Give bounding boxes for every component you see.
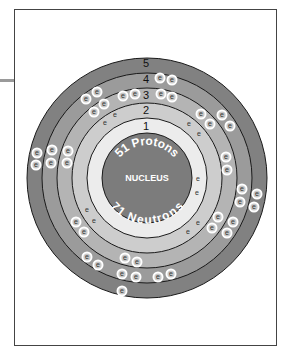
electron: e (186, 228, 190, 235)
electron: e (117, 269, 128, 280)
electron: e (153, 272, 164, 283)
electron-symbol: e (133, 90, 137, 97)
electron: e (213, 212, 224, 223)
electron-symbol: e (158, 74, 162, 81)
electron-symbol: e (196, 175, 200, 182)
electron: e (222, 228, 233, 239)
electron-symbol: e (224, 153, 228, 160)
electron-symbol: e (220, 111, 224, 118)
electron: e (156, 89, 167, 100)
electron-symbol: e (103, 119, 107, 126)
electron-symbol: e (196, 219, 200, 226)
electron: e (228, 217, 239, 228)
electron-symbol: e (210, 224, 214, 231)
electron: e (99, 99, 110, 110)
electron-symbol: e (156, 273, 160, 280)
electron: e (32, 148, 43, 159)
electron: e (92, 217, 96, 224)
electron: e (207, 223, 218, 234)
atom-diagram: 5 4 3 2 1 51 Protons NUCLEUS 71 Neutrons… (0, 0, 294, 363)
electron-symbol: e (187, 120, 191, 127)
electron: e (187, 120, 191, 127)
electron: e (235, 197, 246, 208)
electron: e (93, 260, 104, 271)
electron-symbol: e (159, 90, 163, 97)
electron-symbol: e (225, 166, 229, 173)
shell-1-label: 1 (143, 120, 149, 132)
electron: e (222, 165, 233, 176)
shell-number-labels: 5 4 3 2 1 (143, 57, 149, 132)
electron-symbol: e (82, 228, 86, 235)
electron: e (63, 146, 74, 157)
electron-symbol: e (186, 228, 190, 235)
electron-symbol: e (34, 161, 38, 168)
electron: e (131, 272, 142, 283)
electron: e (130, 89, 141, 100)
electron-symbol: e (238, 198, 242, 205)
electron-symbol: e (92, 217, 96, 224)
electron: e (62, 158, 73, 169)
electron: e (117, 286, 128, 297)
electron: e (85, 206, 89, 213)
electron-symbol: e (170, 76, 174, 83)
electron-symbol: e (197, 130, 201, 137)
electron-symbol: e (240, 185, 244, 192)
electron-symbol: e (84, 95, 88, 102)
shell-3-label: 3 (143, 89, 149, 101)
electron: e (132, 257, 143, 268)
electron-symbol: e (95, 88, 99, 95)
electron-symbol: e (113, 111, 117, 118)
electron: e (46, 158, 57, 169)
electron-symbol: e (195, 189, 199, 196)
electron: e (217, 110, 228, 121)
electron: e (196, 219, 200, 226)
electron-symbol: e (120, 270, 124, 277)
electron-symbol: e (74, 218, 78, 225)
electron: e (195, 189, 199, 196)
electron-symbol: e (92, 108, 96, 115)
electron-symbol: e (96, 261, 100, 268)
electron-symbol: e (85, 253, 89, 260)
electron: e (166, 269, 177, 280)
electron-symbol: e (102, 100, 106, 107)
electron: e (196, 109, 207, 120)
electron-symbol: e (134, 273, 138, 280)
electron: e (197, 130, 201, 137)
electron: e (47, 145, 58, 156)
electron: e (31, 160, 42, 171)
electron: e (196, 175, 200, 182)
electron-symbol: e (49, 159, 53, 166)
electron: e (237, 184, 248, 195)
electron: e (155, 73, 166, 84)
electron-symbol: e (170, 93, 174, 100)
electron: e (249, 202, 260, 213)
electron: e (118, 91, 129, 102)
electron-symbol: e (35, 149, 39, 156)
electron-symbol: e (216, 213, 220, 220)
electron: e (92, 87, 103, 98)
electron-symbol: e (135, 258, 139, 265)
electron-symbol: e (123, 254, 127, 261)
electron: e (82, 252, 93, 263)
electron: e (120, 253, 131, 264)
electron-symbol: e (208, 120, 212, 127)
electron-symbol: e (255, 190, 259, 197)
electron-symbol: e (225, 229, 229, 236)
electron: e (252, 189, 263, 200)
electron: e (89, 107, 100, 118)
electron-symbol: e (199, 110, 203, 117)
electron-symbol: e (228, 122, 232, 129)
shell-4-label: 4 (143, 73, 149, 85)
electron-symbol: e (120, 287, 124, 294)
electron-symbol: e (50, 146, 54, 153)
electron-symbol: e (85, 206, 89, 213)
electron: e (167, 92, 178, 103)
shell-5-label: 5 (143, 57, 149, 69)
electron-symbol: e (252, 203, 256, 210)
electron: e (103, 119, 107, 126)
electron: e (221, 152, 232, 163)
nucleus-label: NUCLEUS (125, 173, 169, 183)
shell-2-label: 2 (143, 104, 149, 116)
electron-symbol: e (66, 147, 70, 154)
electron: e (79, 227, 90, 238)
